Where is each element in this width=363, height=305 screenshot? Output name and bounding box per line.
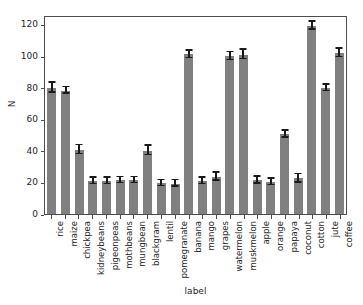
error-bar-cap-top xyxy=(172,179,179,181)
error-bar-cap-top xyxy=(336,47,343,49)
bar xyxy=(116,180,125,214)
bar-slot xyxy=(196,17,210,214)
y-axis-title: N xyxy=(7,101,17,108)
x-axis-tick xyxy=(72,215,86,220)
x-tick-label-slot: mothbeans xyxy=(113,221,127,283)
x-tick-mark xyxy=(326,215,327,219)
x-tick-label-slot: pigeonpeas xyxy=(99,221,113,283)
error-bar-cap-top xyxy=(185,49,192,51)
x-axis-tick-labels: ricemaizechickpeakidneybeanspigeonpeasmo… xyxy=(44,221,347,283)
x-tick-label-slot: banana xyxy=(182,221,196,283)
x-tick-mark xyxy=(257,215,258,219)
x-tick-mark xyxy=(202,215,203,219)
x-tick-label-slot: rice xyxy=(44,221,58,283)
bar-slot xyxy=(182,17,196,214)
x-tick-mark xyxy=(78,215,79,219)
y-tick-mark xyxy=(41,183,45,184)
bar-slot xyxy=(72,17,86,214)
x-axis-tick xyxy=(44,215,58,220)
x-axis-tick xyxy=(278,215,292,220)
error-bar-cap-top xyxy=(158,179,165,181)
x-tick-label-slot: blackgram xyxy=(140,221,154,283)
bar-slot xyxy=(264,17,278,214)
x-axis-tick xyxy=(182,215,196,220)
x-tick-mark xyxy=(65,215,66,219)
y-tick-label: 60 xyxy=(27,114,38,125)
bar xyxy=(47,88,56,214)
x-axis-tick xyxy=(113,215,127,220)
bar xyxy=(335,53,344,214)
x-tick-label-slot: coconut xyxy=(292,221,306,283)
bar xyxy=(239,55,248,214)
bar-chart-figure: N ricemaizechickpeakidneybeanspigeonpeas… xyxy=(0,0,363,305)
bar xyxy=(321,88,330,214)
error-bar-cap-bottom xyxy=(89,183,96,185)
x-tick-label-slot: orange xyxy=(264,221,278,283)
error-bar-cap-bottom xyxy=(172,185,179,187)
bar-slot xyxy=(127,17,141,214)
error-bar-cap-top xyxy=(144,144,151,146)
y-tick-mark xyxy=(41,88,45,89)
x-tick-mark xyxy=(147,215,148,219)
x-axis-tick xyxy=(127,215,141,220)
y-tick-label: 0 xyxy=(32,209,38,220)
x-axis-tick xyxy=(333,215,347,220)
error-bar-cap-top xyxy=(254,175,261,177)
error-bar-cap-bottom xyxy=(76,153,83,155)
error-bar-cap-bottom xyxy=(336,56,343,58)
error-bar-cap-bottom xyxy=(213,179,220,181)
error-bar-cap-bottom xyxy=(308,28,315,30)
x-axis-ticks xyxy=(44,215,347,220)
bar-series xyxy=(45,17,346,214)
y-tick-label: 20 xyxy=(27,177,38,188)
error-bar-cap-top xyxy=(213,171,220,173)
bar xyxy=(61,91,70,215)
error-bar-cap-bottom xyxy=(48,91,55,93)
error-bar-cap-top xyxy=(308,20,315,22)
bar xyxy=(294,178,303,214)
x-tick-label-slot: grapes xyxy=(209,221,223,283)
error-bar-cap-top xyxy=(295,173,302,175)
bar-slot xyxy=(45,17,59,214)
x-tick-label-slot: jute xyxy=(319,221,333,283)
bar-slot xyxy=(332,17,346,214)
x-tick-mark xyxy=(216,215,217,219)
x-tick-mark xyxy=(161,215,162,219)
x-tick-mark xyxy=(340,215,341,219)
x-tick-label-slot: coffee xyxy=(333,221,347,283)
x-tick-mark xyxy=(299,215,300,219)
x-tick-label-slot: pomegranate xyxy=(168,221,182,283)
error-bar-cap-top xyxy=(240,48,247,50)
x-axis-tick xyxy=(306,215,320,220)
bar xyxy=(212,177,221,214)
error-bar-cap-top xyxy=(103,176,110,178)
bar xyxy=(143,151,152,214)
bar xyxy=(198,181,207,214)
bar-slot xyxy=(237,17,251,214)
error-bar-cap-bottom xyxy=(130,182,137,184)
bar xyxy=(253,180,262,214)
bar xyxy=(102,181,111,214)
x-tick-mark xyxy=(92,215,93,219)
x-axis-tick xyxy=(195,215,209,220)
y-tick-mark xyxy=(41,151,45,152)
bar-slot xyxy=(305,17,319,214)
error-bar-cap-top xyxy=(130,176,137,178)
x-tick-label-slot: muskmelon xyxy=(237,221,251,283)
error-bar-cap-bottom xyxy=(144,154,151,156)
error-bar-cap-top xyxy=(281,129,288,131)
error-bar-cap-top xyxy=(322,83,329,85)
x-tick-label-slot: chickpea xyxy=(72,221,86,283)
x-axis-tick xyxy=(209,215,223,220)
bar xyxy=(157,183,166,214)
x-axis-title: label xyxy=(44,286,347,296)
bar-slot xyxy=(278,17,292,214)
error-bar-cap-top xyxy=(48,81,55,83)
error-bar-cap-bottom xyxy=(185,57,192,59)
y-tick-label: 100 xyxy=(21,51,38,62)
bar-slot xyxy=(141,17,155,214)
bar-slot xyxy=(113,17,127,214)
bar-slot xyxy=(209,17,223,214)
x-axis-tick xyxy=(223,215,237,220)
bar xyxy=(266,182,275,214)
